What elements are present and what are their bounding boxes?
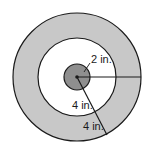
concentric-circles-diagram: 2 in. 4 in. 4 in. xyxy=(0,0,153,155)
inner-radius-label: 2 in. xyxy=(91,53,112,65)
middle-width-label: 4 in. xyxy=(72,99,93,111)
outer-width-label: 4 in. xyxy=(83,120,104,132)
